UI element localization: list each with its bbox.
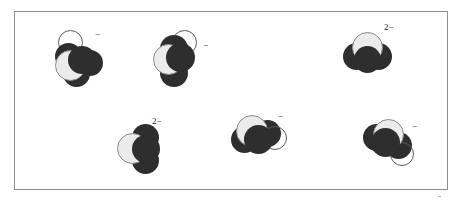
dark-atom-center [354,46,381,73]
dark-atom-center [244,125,273,154]
dark-atom-center [371,128,400,157]
charge-sign: − [203,40,208,50]
figure-canvas: − − 2− [0,0,465,204]
charge-label: − [95,30,100,39]
dark-atom-center [166,43,195,72]
corner-speck [438,196,441,197]
charge-sign: − [278,111,283,121]
figure-frame: − − 2− [14,11,448,190]
dark-atom-center [132,135,160,163]
charge-label: 2− [152,117,162,126]
charge-sign: − [389,22,394,32]
charge-label: − [412,122,417,131]
charge-sign: − [157,116,162,126]
dark-atom-center [68,46,96,74]
charge-sign: − [95,29,100,39]
charge-label: − [203,41,208,50]
charge-label: − [278,112,283,121]
charge-sign: − [412,121,417,131]
charge-label: 2− [384,23,394,32]
